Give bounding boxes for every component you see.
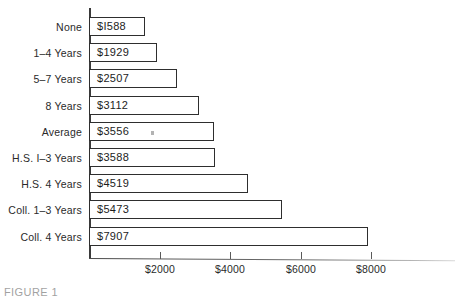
x-axis-tick-label: $4000 (215, 263, 245, 275)
x-axis-tick-mark (230, 252, 231, 259)
x-axis-tick-label: $2000 (145, 263, 175, 275)
bar-category-label: 8 Years (0, 95, 82, 117)
bar-category-label: 5–7 Years (0, 68, 82, 90)
bar-value-label: $5473 (97, 200, 129, 219)
bar-category-label: Average (0, 121, 82, 143)
bar-value-label: $7907 (97, 227, 129, 246)
figure-container: None$I5881–4 Years$19295–7 Years$25078 Y… (0, 0, 471, 298)
bar-category-label: 1–4 Years (0, 42, 82, 64)
bar-value-label: $2507 (97, 69, 129, 88)
bar-category-label: H.S. I–3 Years (0, 147, 82, 169)
bar (89, 227, 368, 246)
scan-artifact-speck (151, 131, 154, 135)
bar-category-label: H.S. 4 Years (0, 173, 82, 195)
x-axis-tick-mark (301, 252, 302, 259)
bar-chart-plot-area: None$I5881–4 Years$19295–7 Years$25078 Y… (0, 0, 471, 298)
x-axis-tick-mark (160, 252, 161, 259)
bar-category-label: None (0, 16, 82, 38)
bar-value-label: $4519 (97, 174, 129, 193)
bar-value-label: $3588 (97, 148, 129, 167)
bar-value-label: $1929 (97, 43, 129, 62)
x-axis-tick-label: $8000 (356, 263, 386, 275)
x-axis-tick-mark (371, 252, 372, 259)
bar-category-label: Coll. 1–3 Years (0, 199, 82, 221)
bar-value-label: $3112 (97, 96, 128, 115)
figure-caption: FIGURE 1 (4, 286, 58, 298)
bar-value-label: $3556 (97, 122, 129, 141)
x-axis-tick-label: $6000 (286, 263, 316, 275)
bar-value-label: $I588 (97, 17, 126, 36)
bar-category-label: Coll. 4 Years (0, 226, 82, 248)
value-axis-line (89, 258, 455, 261)
